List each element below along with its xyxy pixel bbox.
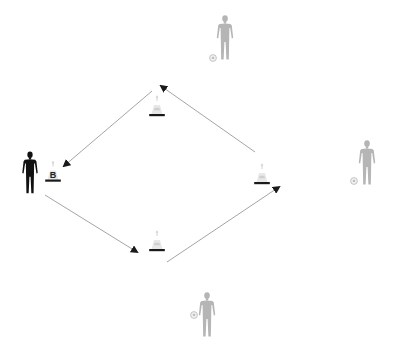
- cones: B: [45, 96, 270, 252]
- server-right-player-icon: [359, 140, 375, 184]
- server-bottom: [191, 292, 216, 336]
- cone-right: [254, 164, 270, 185]
- server-players: [191, 15, 376, 336]
- cone-bottom: [149, 231, 165, 252]
- cone-b-label: B: [50, 170, 57, 180]
- arrow-top-to-cone-b: [64, 91, 152, 166]
- server-right: [351, 140, 376, 184]
- cone-top: [149, 96, 165, 117]
- ball-icon: [191, 312, 198, 319]
- server-bottom-player-icon: [199, 292, 215, 336]
- ball-icon: [210, 55, 217, 62]
- active-player-icon: [22, 151, 37, 193]
- ball-icon: [351, 178, 358, 185]
- arrow-cone-b-to-bottom: [45, 195, 137, 252]
- arrow-bottom-to-right: [167, 187, 279, 262]
- cone-b: B: [45, 161, 61, 182]
- server-top-player-icon: [217, 15, 233, 59]
- drill-diagram: B: [0, 0, 395, 355]
- arrow-right-to-top: [161, 86, 255, 152]
- server-top: [210, 15, 234, 61]
